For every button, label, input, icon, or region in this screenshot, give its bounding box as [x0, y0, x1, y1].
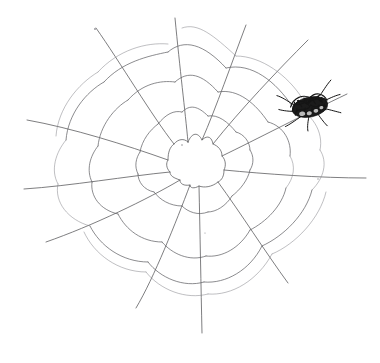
hub-outline — [167, 134, 226, 188]
ring-3-seg-11 — [98, 100, 128, 146]
ring-4-seg-8 — [90, 226, 148, 262]
spider-web-drawing — [0, 0, 380, 363]
ring-4-seg-12 — [104, 52, 168, 82]
radial-spokes-group — [24, 18, 366, 333]
ring-2-seg-5 — [232, 170, 250, 196]
ring-3-seg-2 — [218, 91, 268, 122]
ring-5-seg-5 — [272, 192, 326, 254]
ring-2-seg-7 — [182, 206, 208, 214]
speck — [317, 178, 318, 179]
ring-3-seg-5 — [250, 188, 286, 230]
ring-3-seg-10 — [89, 146, 98, 182]
speck — [204, 232, 205, 233]
ring-4-seg-7 — [148, 262, 204, 284]
spider-leg — [284, 116, 303, 127]
spider — [275, 79, 346, 136]
ring-2-seg-4 — [250, 150, 253, 170]
radial-ene — [222, 94, 347, 156]
ring-2-seg-6 — [208, 196, 232, 212]
speck — [94, 28, 96, 30]
ring-4-seg-2 — [226, 67, 292, 106]
radial-w — [24, 172, 170, 189]
ring-3-seg-7 — [162, 242, 206, 258]
ring-3-seg-9 — [92, 182, 118, 214]
ring-4-seg-11 — [66, 82, 104, 140]
radial-ne — [213, 40, 308, 144]
radial-ese — [218, 182, 288, 283]
ring-4-seg-9 — [57, 184, 90, 226]
ring-3-seg-3 — [268, 122, 290, 156]
ring-5-seg-7 — [146, 272, 208, 296]
ring-4-seg-10 — [54, 140, 66, 184]
ring-5-seg-12 — [98, 44, 168, 72]
ring-4-seg-1 — [168, 45, 226, 68]
speck — [137, 174, 138, 175]
web-hub — [167, 134, 226, 188]
ring-2-seg-3 — [236, 132, 250, 150]
spider-leg — [305, 116, 312, 131]
ring-5-seg-1 — [182, 27, 236, 56]
ring-5-seg-2 — [236, 56, 302, 98]
spider-leg — [317, 80, 333, 96]
radial-nw — [96, 28, 174, 144]
ring-2-seg-8 — [154, 192, 182, 206]
radial-sw — [46, 180, 180, 242]
ring-5-seg-11 — [56, 72, 98, 136]
ring-4-seg-5 — [262, 190, 312, 246]
ring-3-seg-4 — [286, 156, 293, 188]
radial-wnw — [27, 120, 168, 160]
ring-2-seg-9 — [138, 174, 154, 192]
ring-3 — [89, 75, 293, 258]
stray-pen-specks — [94, 28, 319, 233]
ring-5-seg-8 — [84, 232, 146, 272]
ring-2-seg-1 — [182, 107, 208, 116]
radial-e — [224, 170, 366, 178]
ring-2 — [136, 107, 253, 214]
ring-3-seg-12 — [128, 82, 175, 100]
ring-4-seg-4 — [312, 150, 324, 190]
ring-3-seg-6 — [206, 230, 250, 256]
radial-ssw — [136, 185, 190, 308]
drawing-canvas — [0, 0, 380, 363]
ring-2-seg-10 — [136, 152, 140, 174]
ring-5-seg-6 — [208, 254, 272, 294]
ring-3-seg-8 — [118, 214, 162, 242]
ring-2-seg-11 — [140, 124, 158, 152]
radial-s — [199, 186, 202, 333]
ring-2-seg-12 — [158, 112, 182, 125]
ring-5 — [56, 27, 326, 296]
ring-4-seg-6 — [204, 246, 262, 282]
ring-2-seg-2 — [208, 116, 236, 132]
speck — [181, 144, 183, 146]
